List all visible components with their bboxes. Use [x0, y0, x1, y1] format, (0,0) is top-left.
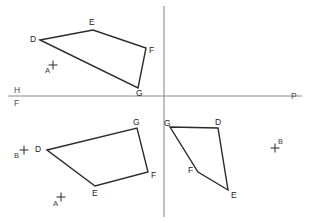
point-b-left-marker [20, 146, 29, 155]
vertex-label-e-front: E [92, 188, 98, 198]
point-label-a-bottom: A [53, 199, 58, 208]
point-label-a-top: A [45, 66, 50, 75]
vertex-label-f-front: F [151, 170, 156, 180]
geometry-figure: H F P D E F G D G F E G D E F A B [0, 0, 310, 223]
quadrilateral-front-view [47, 128, 148, 186]
vertex-label-g-front: G [133, 117, 140, 127]
vertex-label-d-front: D [35, 144, 41, 154]
axis-label-p: P [291, 91, 297, 101]
vertex-label-e-profile: E [231, 190, 237, 200]
vertex-label-g-profile: G [164, 118, 171, 128]
vertex-label-e-top: E [89, 17, 95, 27]
axis-label-f: F [14, 98, 19, 108]
point-label-b-left: B [14, 151, 19, 160]
vertex-label-f-profile: F [188, 165, 193, 175]
figure-canvas: H F P D E F G D G F E G D E F A B [0, 0, 310, 223]
vertex-label-g-top: G [136, 88, 143, 98]
axis-label-h: H [14, 85, 20, 95]
vertex-label-d-top: D [30, 34, 36, 44]
vertex-label-f-top: F [149, 45, 154, 55]
point-label-b-right: B [278, 137, 283, 146]
quadrilateral-top-view [40, 30, 146, 88]
quadrilateral-profile-view [170, 127, 228, 190]
vertex-label-d-profile: D [215, 117, 221, 127]
